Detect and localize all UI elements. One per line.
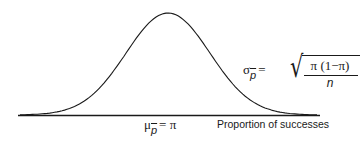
sd-subscript: p — [250, 69, 256, 81]
mu-symbol: μ — [144, 117, 151, 132]
sd-equals: = — [258, 62, 265, 77]
fraction-denominator: n — [300, 76, 360, 90]
mean-subscript: p — [151, 124, 157, 136]
mean-label: μp= π — [144, 117, 176, 133]
bell-curve — [20, 13, 317, 115]
x-axis-label: Proportion of successes — [217, 118, 329, 130]
mean-value: = π — [159, 117, 176, 132]
sd-label: σp= — [243, 62, 265, 78]
sd-fraction: π (1−π) n — [300, 55, 360, 90]
sigma-symbol: σ — [243, 62, 250, 77]
fraction-numerator: π (1−π) — [300, 58, 360, 74]
